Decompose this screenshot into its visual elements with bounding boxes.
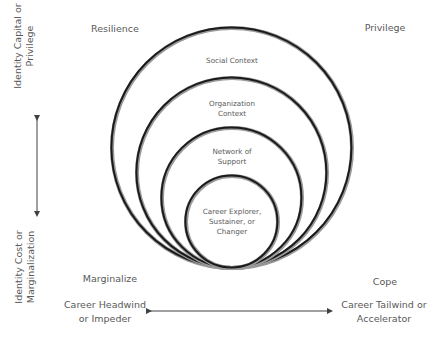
circle-label-career-role: Career Explorer, Sustainer, or Changer: [182, 207, 282, 237]
vertical-top-line2: Privilege: [24, 0, 36, 94]
horizontal-left-line1: Career Headwind: [60, 299, 150, 311]
vertical-axis-top-label: Identity Capital or Privilege: [12, 0, 40, 94]
horizontal-right-line1: Career Tailwind or: [334, 299, 434, 311]
network-of-support-line2: Support: [182, 157, 282, 167]
organization-context-line1: Organization: [182, 99, 282, 109]
horizontal-axis-left-label: Career Headwind or Impeder: [60, 299, 150, 325]
circle-label-social-context: Social Context: [182, 56, 282, 66]
network-of-support-line1: Network of: [182, 147, 282, 157]
career-role-line3: Changer: [182, 227, 282, 237]
organization-context-line2: Context: [182, 109, 282, 119]
career-role-line2: Sustainer, or: [182, 217, 282, 227]
horizontal-right-line2: Accelerator: [334, 313, 434, 325]
horizontal-left-line2: or Impeder: [60, 313, 150, 325]
circle-label-network-of-support: Network of Support: [182, 147, 282, 167]
corner-label-resilience: Resilience: [85, 23, 145, 35]
corner-label-cope: Cope: [365, 276, 405, 288]
horizontal-axis-right-label: Career Tailwind or Accelerator: [334, 299, 434, 325]
vertical-top-line1: Identity Capital or: [12, 0, 24, 94]
circle-label-organization-context: Organization Context: [182, 99, 282, 119]
career-role-line1: Career Explorer,: [182, 207, 282, 217]
nested-circles-diagram: [0, 0, 435, 340]
corner-label-privilege: Privilege: [360, 22, 410, 34]
social-context-text: Social Context: [182, 56, 282, 66]
vertical-bottom-line1: Identity Cost or: [13, 224, 25, 310]
corner-label-marginalize: Marginalize: [80, 273, 140, 285]
vertical-bottom-line2: Marginalization: [25, 224, 37, 310]
vertical-axis-bottom-label: Identity Cost or Marginalization: [13, 224, 41, 310]
